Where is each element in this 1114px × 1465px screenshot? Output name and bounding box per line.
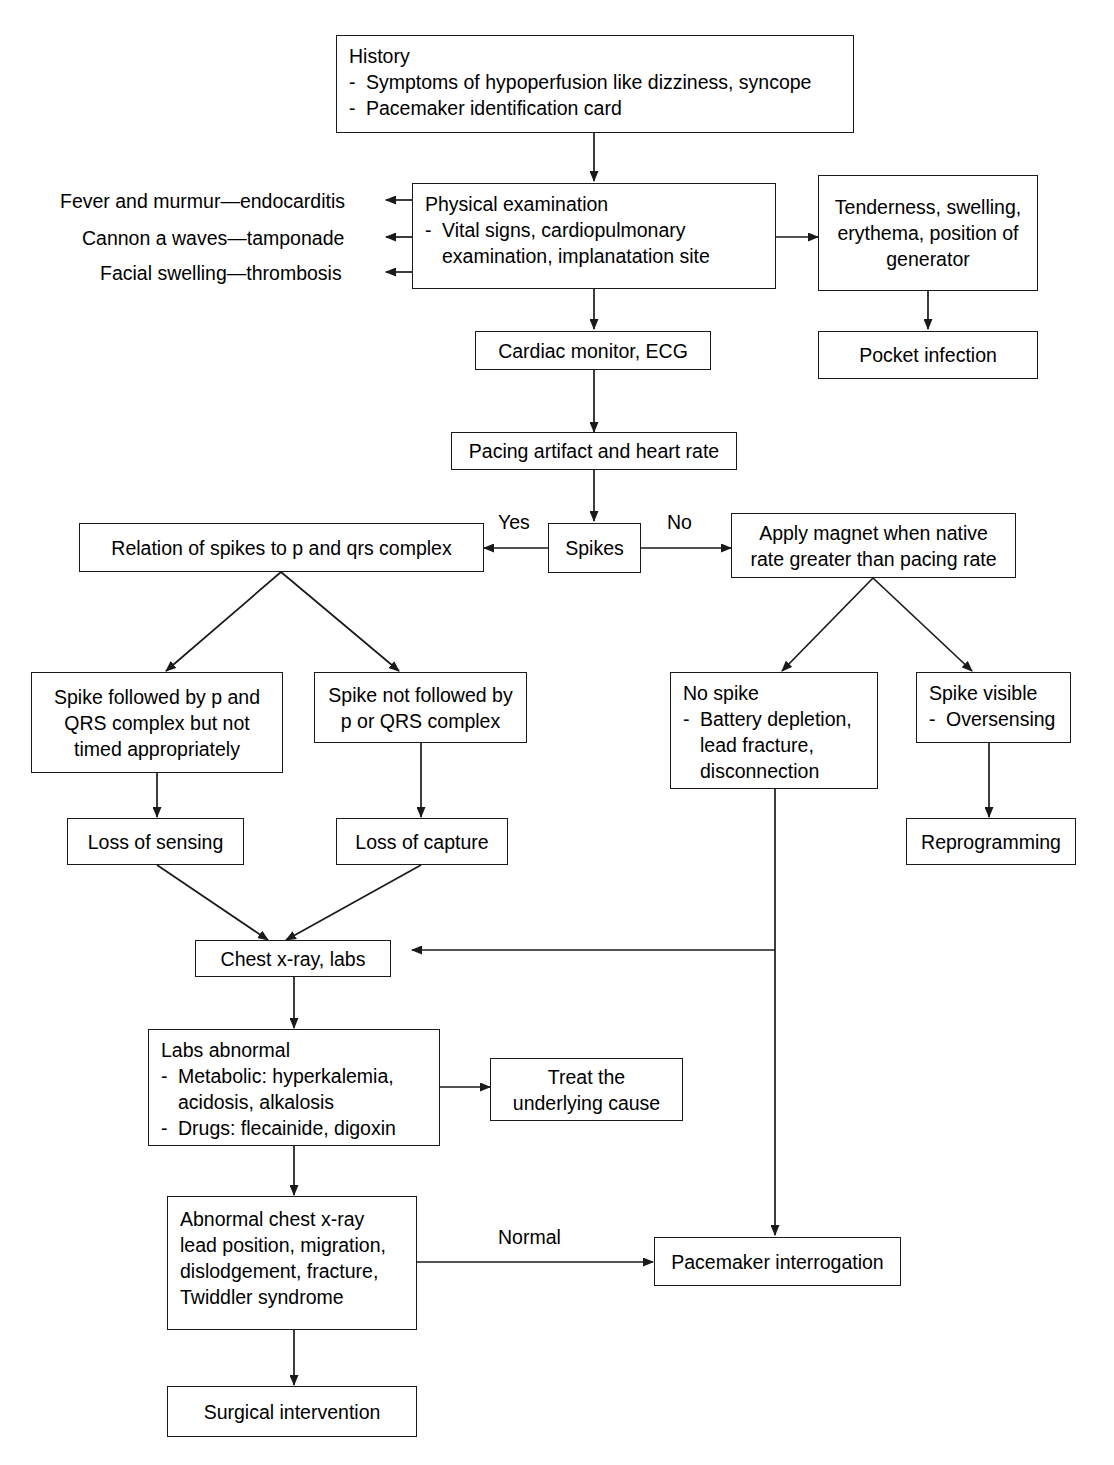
spike-visible-title: Spike visible (929, 680, 1060, 706)
abnormal-chest-xray-line-1: Abnormal chest x-ray (180, 1206, 406, 1232)
node-pocket-infection[interactable]: Pocket infection (818, 331, 1038, 379)
finding-label: Fever and murmur—endocarditis (60, 190, 345, 212)
edge-magnet-to-spike-visible (873, 578, 972, 671)
finding-cannon-a-waves: Cannon a waves—tamponade (82, 226, 344, 250)
dash-marker: - (683, 706, 700, 732)
list-item: -Symptoms of hypoperfusion like dizzines… (349, 69, 843, 95)
abnormal-chest-xray-line-2: lead position, migration, (180, 1232, 406, 1258)
list-item: -Drugs: flecainide, digoxin (161, 1115, 429, 1141)
apply-magnet-line-1: Apply magnet when native (750, 520, 996, 546)
spike-not-followed-line-1: Spike not followed by (328, 682, 512, 708)
apply-magnet-line-2: rate greater than pacing rate (750, 546, 996, 572)
generator-site-line-2: erythema, position of (835, 220, 1021, 246)
node-cardiac-monitor[interactable]: Cardiac monitor, ECG (475, 331, 711, 370)
node-spike-visible[interactable]: Spike visible -Oversensing (916, 672, 1071, 743)
node-apply-magnet[interactable]: Apply magnet when native rate greater th… (731, 513, 1016, 578)
labs-abnormal-bullet-1: Metabolic: hyperkalemia, acidosis, alkal… (178, 1063, 429, 1115)
list-item: -Metabolic: hyperkalemia, acidosis, alka… (161, 1063, 429, 1115)
node-spike-followed[interactable]: Spike followed by p and QRS complex but … (31, 672, 283, 773)
node-surgical-intervention[interactable]: Surgical intervention (167, 1386, 417, 1437)
node-spike-not-followed[interactable]: Spike not followed by p or QRS complex (314, 672, 527, 743)
generator-site-text: Tenderness, swelling, erythema, position… (835, 194, 1021, 272)
list-item: -Battery depletion, lead fracture, disco… (683, 706, 867, 784)
labs-abnormal-bullets: -Metabolic: hyperkalemia, acidosis, alka… (161, 1063, 429, 1141)
history-bullets: -Symptoms of hypoperfusion like dizzines… (349, 69, 843, 121)
cardiac-monitor-label: Cardiac monitor, ECG (498, 338, 688, 364)
edge-label-yes: Yes (496, 511, 532, 533)
finding-label: Cannon a waves—tamponade (82, 227, 344, 249)
edge-loss-sensing-to-chest-xray (157, 865, 268, 940)
abnormal-chest-xray-text: Abnormal chest x-ray lead position, migr… (180, 1206, 406, 1310)
generator-site-line-1: Tenderness, swelling, (835, 194, 1021, 220)
spike-followed-text: Spike followed by p and QRS complex but … (54, 684, 260, 762)
dash-marker: - (929, 706, 946, 732)
history-bullet-2: Pacemaker identification card (366, 95, 843, 121)
generator-site-line-3: generator (835, 246, 1021, 272)
no-spike-title: No spike (683, 680, 867, 706)
edge-label-no: No (665, 511, 694, 533)
node-loss-of-capture[interactable]: Loss of capture (336, 818, 508, 865)
node-treat-underlying-cause[interactable]: Treat the underlying cause (490, 1058, 683, 1121)
node-physical-examination[interactable]: Physical examination -Vital signs, cardi… (412, 183, 776, 289)
spike-visible-bullets: -Oversensing (929, 706, 1060, 732)
spikes-label: Spikes (565, 535, 624, 561)
flowchart-canvas: History -Symptoms of hypoperfusion like … (0, 0, 1114, 1465)
finding-facial-swelling: Facial swelling—thrombosis (100, 261, 342, 285)
node-relation-of-spikes[interactable]: Relation of spikes to p and qrs complex (79, 523, 484, 572)
node-reprogramming[interactable]: Reprogramming (906, 818, 1076, 865)
abnormal-chest-xray-line-3: dislodgement, fracture, (180, 1258, 406, 1284)
spike-not-followed-line-2: p or QRS complex (328, 708, 512, 734)
chest-xray-labs-label: Chest x-ray, labs (221, 946, 366, 972)
treat-underlying-line-1: Treat the (513, 1064, 660, 1090)
loss-of-capture-label: Loss of capture (355, 829, 488, 855)
edge-magnet-to-no-spike (782, 578, 873, 671)
treat-underlying-line-2: underlying cause (513, 1090, 660, 1116)
spike-followed-line-3: timed appropriately (54, 736, 260, 762)
abnormal-chest-xray-line-4: Twiddler syndrome (180, 1284, 406, 1310)
labs-abnormal-title: Labs abnormal (161, 1037, 429, 1063)
no-spike-bullet-1: Battery depletion, lead fracture, discon… (700, 706, 867, 784)
node-history[interactable]: History -Symptoms of hypoperfusion like … (336, 35, 854, 133)
list-item: -Oversensing (929, 706, 1060, 732)
physical-examination-title: Physical examination (425, 191, 765, 217)
node-pacemaker-interrogation[interactable]: Pacemaker interrogation (654, 1237, 901, 1286)
node-chest-xray-labs[interactable]: Chest x-ray, labs (195, 940, 391, 977)
dash-marker: - (349, 69, 366, 95)
reprogramming-label: Reprogramming (921, 829, 1061, 855)
node-labs-abnormal[interactable]: Labs abnormal -Metabolic: hyperkalemia, … (148, 1029, 440, 1146)
finding-label: Facial swelling—thrombosis (100, 262, 342, 284)
edge-relation-to-spike-followed (166, 572, 281, 671)
spike-followed-line-1: Spike followed by p and (54, 684, 260, 710)
relation-of-spikes-label: Relation of spikes to p and qrs complex (111, 535, 451, 561)
no-spike-bullets: -Battery depletion, lead fracture, disco… (683, 706, 867, 784)
dash-marker: - (161, 1115, 178, 1141)
yes-text: Yes (498, 511, 530, 533)
spike-followed-line-2: QRS complex but not (54, 710, 260, 736)
edge-loss-capture-to-chest-xray (286, 865, 421, 940)
pocket-infection-label: Pocket infection (859, 342, 997, 368)
node-no-spike[interactable]: No spike -Battery depletion, lead fractu… (670, 672, 878, 789)
list-item: -Pacemaker identification card (349, 95, 843, 121)
dash-marker: - (425, 217, 442, 243)
list-item: -Vital signs, cardiopulmonary examinatio… (425, 217, 765, 269)
dash-marker: - (161, 1063, 178, 1089)
history-title: History (349, 43, 843, 69)
physical-examination-bullet-1: Vital signs, cardiopulmonary examination… (442, 217, 765, 269)
spike-visible-bullet-1: Oversensing (946, 706, 1060, 732)
node-spikes[interactable]: Spikes (548, 523, 641, 573)
loss-of-sensing-label: Loss of sensing (88, 829, 224, 855)
labs-abnormal-bullet-2: Drugs: flecainide, digoxin (178, 1115, 429, 1141)
node-generator-site[interactable]: Tenderness, swelling, erythema, position… (818, 175, 1038, 291)
node-abnormal-chest-xray[interactable]: Abnormal chest x-ray lead position, migr… (167, 1196, 417, 1330)
history-bullet-1: Symptoms of hypoperfusion like dizziness… (366, 69, 843, 95)
normal-text: Normal (498, 1226, 561, 1248)
physical-examination-bullets: -Vital signs, cardiopulmonary examinatio… (425, 217, 765, 269)
node-pacing-artifact[interactable]: Pacing artifact and heart rate (451, 432, 737, 470)
edge-label-normal: Normal (496, 1226, 563, 1248)
no-text: No (667, 511, 692, 533)
surgical-intervention-label: Surgical intervention (204, 1399, 381, 1425)
dash-marker: - (349, 95, 366, 121)
pacing-artifact-label: Pacing artifact and heart rate (469, 438, 719, 464)
node-loss-of-sensing[interactable]: Loss of sensing (67, 818, 244, 865)
finding-fever-and-murmur: Fever and murmur—endocarditis (60, 189, 345, 213)
